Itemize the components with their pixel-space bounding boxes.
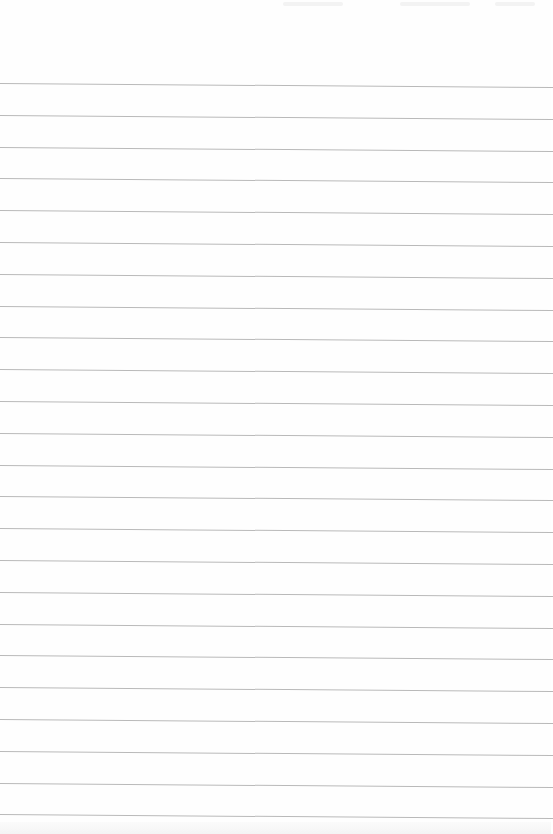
- ruled-line: [0, 210, 553, 215]
- ruled-line: [0, 306, 553, 311]
- ruled-line: [0, 560, 553, 565]
- bleed-through-mark: [400, 2, 470, 6]
- ruled-line: [0, 115, 553, 120]
- ruled-line: [0, 337, 553, 342]
- ruled-line: [0, 369, 553, 374]
- bleed-through-mark: [495, 2, 535, 6]
- ruled-line: [0, 655, 553, 660]
- ruled-line: [0, 433, 553, 438]
- ruled-line: [0, 814, 553, 819]
- ruled-line: [0, 592, 553, 597]
- ruled-line: [0, 147, 553, 152]
- ruled-line: [0, 496, 553, 501]
- ruled-line: [0, 274, 553, 279]
- ruled-line: [0, 719, 553, 724]
- ruled-line: [0, 401, 553, 406]
- ruled-line: [0, 783, 553, 788]
- ruled-line: [0, 751, 553, 756]
- ruled-line: [0, 687, 553, 692]
- page-bottom-edge: [0, 822, 551, 834]
- ruled-line: [0, 624, 553, 629]
- ruled-line: [0, 83, 553, 88]
- ruled-line: [0, 528, 553, 533]
- bleed-through-mark: [283, 2, 343, 6]
- ruled-line: [0, 242, 553, 247]
- ruled-line: [0, 178, 553, 183]
- ruled-line: [0, 465, 553, 470]
